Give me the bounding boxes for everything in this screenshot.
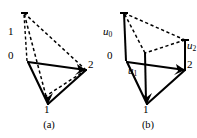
panel-a-drawing [0,0,98,118]
bar-u0-line [124,13,126,61]
vertical-value-bars-b [124,13,185,101]
panel-caption-b: (b) [99,119,197,130]
panel-b-drawing [99,0,197,118]
vertex-label-top-left-a: 1 [8,26,14,37]
function-label-u1: u1 [128,65,137,76]
vertex-label-origin-b: 0 [107,50,113,61]
vertex-label-right-b: 2 [187,59,193,70]
u1-base: u [128,64,134,76]
u2-subscript: 2 [193,44,197,53]
dashed-lifted-triangle-a [24,13,86,96]
solid-base-triangle-a [28,62,86,104]
function-label-u0: u0 [103,26,112,37]
vertex-label-right-a: 2 [88,59,94,70]
bar-u1-line [145,53,146,101]
panel-caption-a: (a) [0,119,98,130]
u0-base: u [103,25,109,37]
vertex-label-bottom-a: 1 [44,104,50,115]
dashed-lifted-triangle-b [124,13,185,53]
u0-subscript: 0 [109,30,113,39]
function-label-u2: u2 [187,40,196,51]
vertex-label-origin-a: 0 [8,50,14,61]
vertex-arrowheads-b [142,64,185,104]
figure-container: 1 0 2 1 (a) [0,0,197,138]
u1-subscript: 1 [134,69,138,78]
vertex-label-bottom-b: 1 [143,104,149,115]
figure-panel-a: 1 0 2 1 (a) [0,0,98,138]
u2-base: u [187,39,193,51]
figure-panel-b: u0 0 u1 u2 2 1 (b) [99,0,197,138]
